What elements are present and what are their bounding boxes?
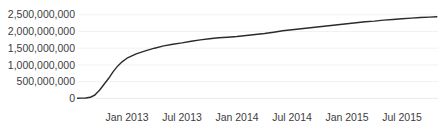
x-tick-label: Jul 2015: [382, 111, 422, 123]
line-chart: 0500,000,0001,000,000,0001,500,000,0002,…: [0, 0, 440, 128]
x-tick-label: Jul 2014: [272, 111, 312, 123]
x-tick-label: Jan 2015: [325, 111, 368, 123]
y-tick-label: 0: [69, 92, 75, 104]
series-line: [78, 17, 437, 99]
x-tick-label: Jul 2013: [162, 111, 202, 123]
chart-canvas: 0500,000,0001,000,000,0001,500,000,0002,…: [0, 0, 440, 128]
x-tick-label: Jan 2014: [215, 111, 258, 123]
y-tick-label: 2,500,000,000: [8, 8, 75, 20]
x-axis-tick-labels: Jan 2013Jul 2013Jan 2014Jul 2014Jan 2015…: [105, 111, 422, 123]
y-axis-tick-labels: 0500,000,0001,000,000,0001,500,000,0002,…: [8, 8, 75, 104]
y-tick-label: 2,000,000,000: [8, 25, 75, 37]
y-tick-label: 1,000,000,000: [8, 59, 75, 71]
x-tick-label: Jan 2013: [105, 111, 148, 123]
y-tick-label: 500,000,000: [17, 75, 76, 87]
y-tick-label: 1,500,000,000: [8, 42, 75, 54]
